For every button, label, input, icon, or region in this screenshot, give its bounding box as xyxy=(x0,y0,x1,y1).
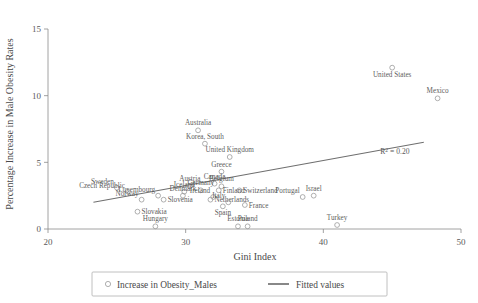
y-tick-label: 5 xyxy=(37,158,42,168)
data-point-label: United States xyxy=(373,71,412,79)
data-point-label: Korea, South xyxy=(186,133,224,141)
data-point-label: France xyxy=(249,202,269,210)
data-point-label: Australia xyxy=(185,119,212,127)
data-point[interactable] xyxy=(156,193,161,198)
x-tick-label: 50 xyxy=(457,237,467,247)
legend-label-fitted: Fitted values xyxy=(296,280,345,290)
legend: Increase in Obesity_Males Fitted values xyxy=(92,272,387,296)
legend-marker-scatter-icon xyxy=(105,281,110,286)
data-point-label: United Kingdom xyxy=(205,146,254,154)
data-point-label: Poland xyxy=(238,215,258,223)
data-point[interactable] xyxy=(390,65,395,70)
data-point-label: Slovenia xyxy=(168,196,194,204)
data-point-label: Norway xyxy=(115,190,139,198)
x-axis-ticks: 20304050 xyxy=(44,229,467,247)
y-tick-label: 10 xyxy=(32,91,42,101)
data-point-label: Mexico xyxy=(427,87,449,95)
data-point[interactable] xyxy=(139,197,144,202)
data-point-label: Portugal xyxy=(275,187,299,195)
data-point[interactable] xyxy=(245,224,250,229)
data-point-label: Switzerland xyxy=(243,187,278,195)
y-axis-title: Percentage Increase in Male Obesity Rate… xyxy=(4,38,15,209)
data-point[interactable] xyxy=(227,155,232,160)
scatter-chart: 051015 20304050 Gini Index Percentage In… xyxy=(0,0,478,303)
data-point[interactable] xyxy=(300,195,305,200)
chart-canvas: 051015 20304050 Gini Index Percentage In… xyxy=(0,0,478,303)
data-point-label: Turkey xyxy=(327,214,348,222)
data-point[interactable] xyxy=(435,96,440,101)
data-point[interactable] xyxy=(161,197,166,202)
data-point-label: Italy xyxy=(212,192,226,200)
y-axis-ticks: 051015 xyxy=(32,24,48,234)
data-point[interactable] xyxy=(153,224,158,229)
y-tick-label: 0 xyxy=(37,224,42,234)
x-tick-label: 30 xyxy=(181,237,191,247)
data-point[interactable] xyxy=(135,209,140,214)
data-point[interactable] xyxy=(335,223,340,228)
data-point-label: Ireland xyxy=(190,187,211,195)
data-point-label: Greece xyxy=(211,161,231,169)
y-axis-group: 051015 xyxy=(32,24,48,234)
data-point-label: Finland xyxy=(223,187,245,195)
data-point-label: Israel xyxy=(306,185,322,193)
data-point[interactable] xyxy=(311,193,316,198)
data-point-label: Hungary xyxy=(143,215,169,223)
r-squared-annotation: R2 = 0.20 xyxy=(380,147,409,157)
x-axis-title: Gini Index xyxy=(233,251,276,262)
legend-label-scatter: Increase in Obesity_Males xyxy=(117,280,217,290)
y-tick-label: 15 xyxy=(32,24,42,34)
x-tick-label: 40 xyxy=(319,237,329,247)
data-point[interactable] xyxy=(220,204,225,209)
data-point[interactable] xyxy=(236,224,241,229)
x-axis-group: 20304050 xyxy=(44,229,467,247)
x-tick-label: 20 xyxy=(44,237,54,247)
